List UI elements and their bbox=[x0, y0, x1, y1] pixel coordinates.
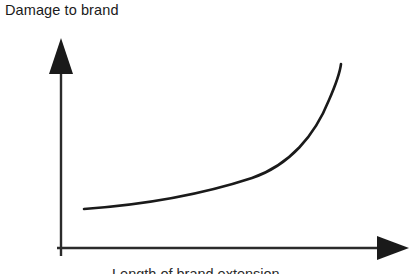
x-axis-label: Length of brand extension bbox=[112, 266, 322, 274]
data-curve bbox=[84, 64, 341, 209]
chart-plot-area bbox=[0, 0, 412, 274]
y-axis-arrowhead-icon bbox=[49, 38, 73, 74]
chart-figure: Damage to brand Length of brand extensio… bbox=[0, 0, 412, 274]
x-axis-arrowhead-icon bbox=[377, 236, 409, 260]
